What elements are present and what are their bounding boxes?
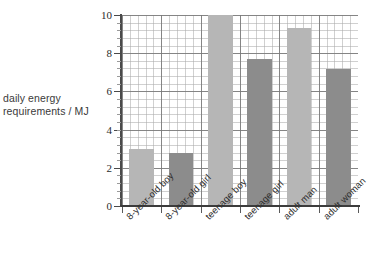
y-axis-tick-label: 8: [92, 47, 112, 59]
y-axis-title: daily energy requirements / MJ: [3, 92, 103, 118]
bar: [326, 69, 350, 206]
x-axis-tick: [279, 207, 280, 213]
y-axis-minor-tick: [117, 114, 121, 115]
y-axis-minor-tick: [117, 175, 121, 176]
y-axis-minor-tick: [117, 107, 121, 108]
y-axis-tick-label: 10: [92, 9, 112, 21]
y-axis-minor-tick: [117, 145, 121, 146]
y-axis-minor-tick: [117, 30, 121, 31]
y-axis-tick-label: 2: [92, 162, 112, 174]
y-axis-title-line-1: daily energy: [3, 92, 103, 105]
y-axis-tick: [114, 53, 121, 54]
bar: [208, 15, 232, 206]
y-axis-title-line-2: requirements / MJ: [3, 105, 103, 118]
y-axis-line: [120, 14, 122, 207]
y-axis-minor-tick: [117, 153, 121, 154]
x-axis-tick: [161, 207, 162, 213]
y-axis-minor-tick: [117, 68, 121, 69]
bar: [247, 59, 271, 206]
bar-chart-figure: daily energy requirements / MJ 0246810 8…: [0, 0, 367, 271]
bar: [287, 28, 311, 206]
x-axis-tick: [319, 207, 320, 213]
y-axis-minor-tick: [117, 84, 121, 85]
y-axis-minor-tick: [117, 38, 121, 39]
y-axis-minor-tick: [117, 137, 121, 138]
y-axis-tick-label: 4: [92, 124, 112, 136]
y-axis-minor-tick: [117, 130, 121, 131]
x-axis-tick: [122, 207, 123, 213]
y-axis-minor-tick: [117, 46, 121, 47]
y-axis-tick: [114, 15, 121, 16]
y-axis-minor-tick: [117, 61, 121, 62]
y-axis-tick: [114, 91, 121, 92]
x-axis-tick: [240, 207, 241, 213]
y-axis-minor-tick: [117, 183, 121, 184]
y-axis-tick: [114, 168, 121, 169]
y-axis-minor-tick: [117, 23, 121, 24]
y-axis-minor-tick: [117, 76, 121, 77]
x-axis-tick: [201, 207, 202, 213]
y-axis-minor-tick: [117, 160, 121, 161]
y-axis-minor-tick: [117, 122, 121, 123]
y-axis-minor-tick: [117, 198, 121, 199]
y-axis-tick-label: 0: [92, 200, 112, 212]
y-axis-tick-label: 6: [92, 85, 112, 97]
y-axis-minor-tick: [117, 99, 121, 100]
y-axis-minor-tick: [117, 191, 121, 192]
x-axis-tick: [358, 207, 359, 213]
y-axis-tick: [114, 206, 121, 207]
